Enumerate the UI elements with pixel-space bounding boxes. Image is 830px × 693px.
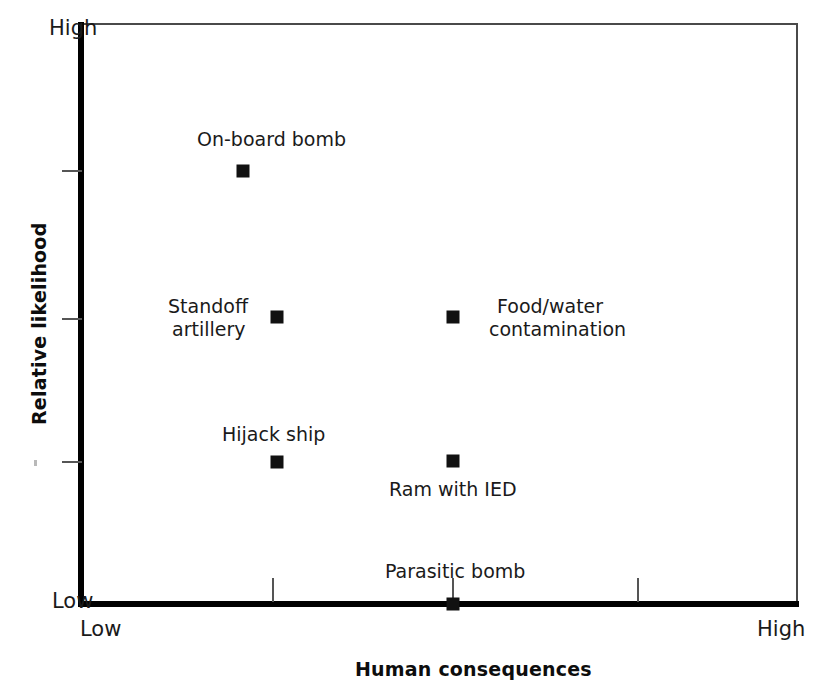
point-label-food-water-line2: contamination — [489, 318, 626, 340]
x-axis-high-label: High — [757, 617, 805, 641]
data-point-food-water-contamination — [447, 311, 460, 324]
data-point-standoff-artillery — [271, 311, 284, 324]
y-axis-tick-2 — [62, 318, 82, 320]
point-label-food-water-line1: Food/water — [497, 295, 603, 317]
scan-artifact — [34, 460, 37, 466]
y-axis-tick-1 — [62, 170, 82, 172]
x-axis-line — [78, 601, 799, 607]
point-label-ram-with-ied: Ram with IED — [389, 478, 517, 500]
y-axis-low-label: Low — [52, 589, 93, 613]
point-label-parasitic-bomb: Parasitic bomb — [385, 560, 525, 582]
point-label-standoff-artillery-line1: Standoff — [168, 295, 248, 317]
y-axis-high-label: High — [49, 16, 97, 40]
x-axis-tick-3 — [637, 578, 639, 602]
point-label-standoff-artillery-line2: artillery — [172, 318, 246, 340]
point-label-on-board-bomb: On-board bomb — [197, 128, 346, 150]
x-axis-tick-1 — [272, 578, 274, 602]
data-point-parasitic-bomb — [447, 598, 460, 611]
data-point-on-board-bomb — [237, 165, 250, 178]
point-label-hijack-ship: Hijack ship — [222, 423, 325, 445]
x-axis-title: Human consequences — [355, 658, 592, 680]
plot-frame-top — [82, 23, 798, 25]
risk-matrix-chart: High Low Low High Relative likelihood Hu… — [0, 0, 830, 693]
x-axis-low-label: Low — [80, 617, 121, 641]
y-axis-tick-3 — [62, 461, 82, 463]
y-axis-line — [78, 22, 84, 607]
y-axis-title: Relative likelihood — [28, 223, 50, 425]
plot-frame-right — [796, 23, 798, 603]
data-point-hijack-ship — [271, 456, 284, 469]
data-point-ram-with-ied — [447, 455, 460, 468]
